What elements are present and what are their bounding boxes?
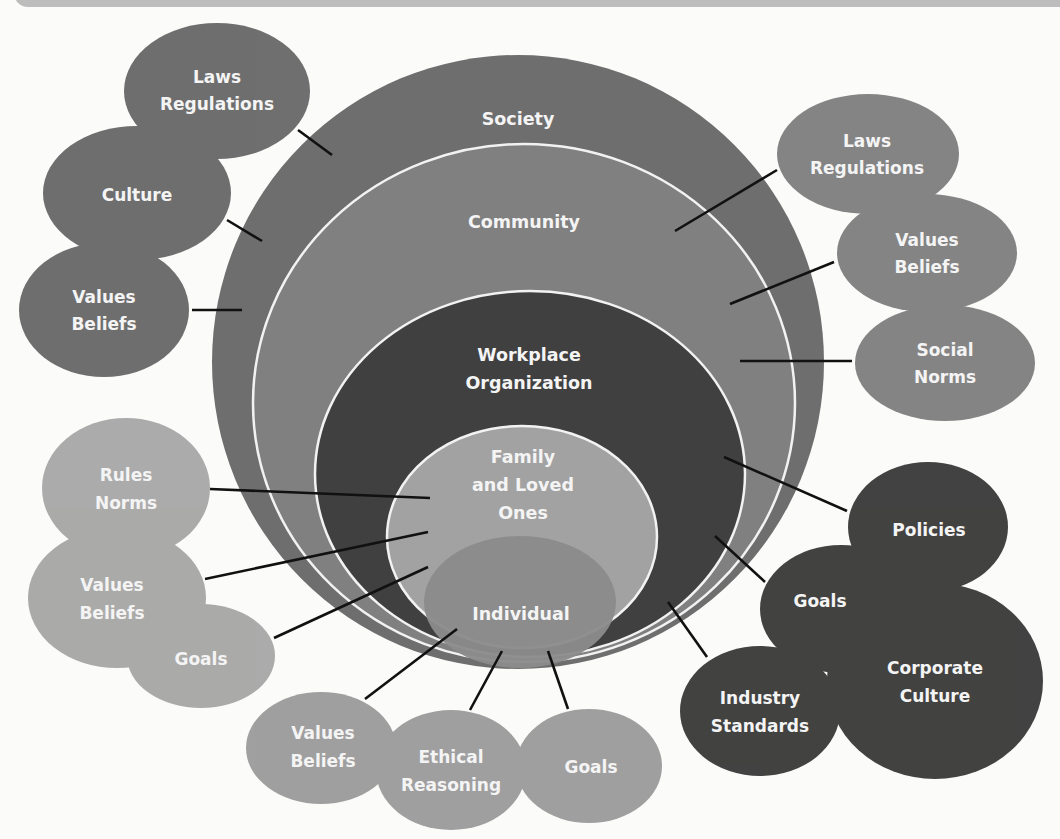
community-norms-line2: Norms xyxy=(914,367,976,387)
workplace-corporate-line2: Culture xyxy=(900,686,971,706)
workplace-label-line2: Organization xyxy=(465,373,592,393)
individual-goals-line1: Goals xyxy=(564,757,617,777)
family-rules-line1: Rules xyxy=(100,465,153,485)
bubble-society-values xyxy=(19,243,189,377)
individual-values-line2: Beliefs xyxy=(290,751,355,771)
community-laws-line1: Laws xyxy=(843,131,891,151)
society-laws-line2: Regulations xyxy=(160,94,274,114)
society-label: Society xyxy=(482,109,555,129)
society-laws-line1: Laws xyxy=(193,67,241,87)
family-label-line2: and Loved xyxy=(472,475,574,495)
individual-ethical-line1: Ethical xyxy=(418,747,483,767)
family-label-line1: Family xyxy=(491,447,556,467)
family-rules-line2: Norms xyxy=(95,493,157,513)
workplace-standards-line1: Industry xyxy=(720,688,800,708)
workplace-label-line1: Workplace xyxy=(477,345,581,365)
community-values-line1: Values xyxy=(895,230,958,250)
workplace-standards-line2: Standards xyxy=(711,716,809,736)
bubble-individual-values xyxy=(246,692,396,804)
workplace-policies-line1: Policies xyxy=(892,520,965,540)
bubble-workplace-corporate xyxy=(827,583,1043,779)
individual-label: Individual xyxy=(472,604,570,624)
community-laws-line2: Regulations xyxy=(810,158,924,178)
community-label: Community xyxy=(468,212,581,232)
community-norms-line1: Social xyxy=(916,340,973,360)
workplace-goals-line1: Goals xyxy=(793,591,846,611)
individual-circle xyxy=(424,536,616,668)
workplace-corporate-line1: Corporate xyxy=(887,658,983,678)
family-label-line3: Ones xyxy=(498,503,548,523)
society-values-line2: Beliefs xyxy=(71,314,136,334)
family-goals-line1: Goals xyxy=(174,649,227,669)
family-values-line2: Beliefs xyxy=(79,603,144,623)
bubble-community-values xyxy=(837,194,1017,312)
individual-values-line1: Values xyxy=(291,723,354,743)
ethics-influence-diagram: Society Community Workplace Organization… xyxy=(0,0,1060,839)
bubble-individual-ethical xyxy=(376,710,526,830)
family-values-line1: Values xyxy=(80,575,143,595)
community-values-line2: Beliefs xyxy=(894,257,959,277)
society-values-line1: Values xyxy=(72,287,135,307)
bubble-workplace-standards xyxy=(680,646,840,776)
society-culture-line1: Culture xyxy=(102,185,173,205)
bubble-community-norms xyxy=(855,305,1035,421)
individual-ethical-line2: Reasoning xyxy=(401,775,501,795)
